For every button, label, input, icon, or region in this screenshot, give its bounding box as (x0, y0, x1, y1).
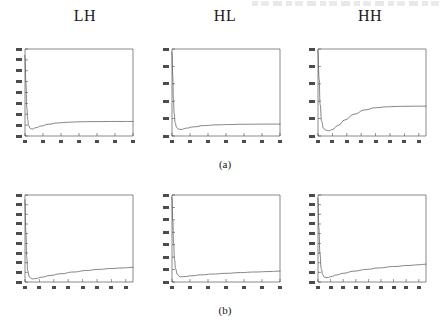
plot-panel-b-hh (297, 190, 430, 295)
y-tick-label (309, 194, 315, 197)
y-tick-label (16, 271, 22, 274)
y-tick-label (16, 102, 22, 105)
y-tick-label (309, 281, 315, 284)
x-tick-label (417, 140, 421, 143)
y-tick-label (16, 242, 22, 245)
x-tick-label (170, 286, 174, 289)
x-tick-label (95, 140, 99, 143)
y-tick-label (163, 218, 169, 221)
x-tick-label (109, 286, 113, 289)
y-tick-label (309, 213, 315, 216)
y-tick-label (16, 91, 22, 94)
y-tick-label (16, 113, 22, 116)
y-tick-label (16, 222, 22, 225)
x-tick-label (379, 286, 383, 289)
y-tick-label (16, 213, 22, 216)
y-tick-label (163, 194, 169, 197)
y-tick-label (309, 117, 315, 120)
y-tick-label (163, 65, 169, 68)
x-tick-label (417, 286, 421, 289)
x-tick-label (23, 140, 27, 143)
y-tick-label (309, 252, 315, 255)
x-tick-label (341, 286, 345, 289)
y-tick-label (309, 65, 315, 68)
plot-panel-b-lh (4, 190, 137, 295)
subfigure-label-b: (b) (195, 304, 255, 316)
x-tick-label (354, 286, 358, 289)
y-tick-label (309, 271, 315, 274)
y-tick-label (163, 206, 169, 209)
y-tick-label (309, 135, 315, 138)
y-tick-label (16, 58, 22, 61)
x-tick-label (242, 286, 246, 289)
plot-panel-a-hl (151, 44, 284, 149)
column-header-hh: HH (325, 7, 415, 25)
x-tick-label (124, 286, 128, 289)
y-tick-label (163, 82, 169, 85)
y-tick-label (16, 194, 22, 197)
y-tick-label (309, 222, 315, 225)
y-tick-label (163, 256, 169, 259)
column-header-hl: HL (180, 7, 270, 25)
x-tick-label (170, 140, 174, 143)
y-tick-label (163, 231, 169, 234)
plot-panel-b-hl (151, 190, 284, 295)
x-tick-label (59, 140, 63, 143)
x-tick-label (329, 286, 333, 289)
x-tick-label (77, 140, 81, 143)
y-tick-label (16, 252, 22, 255)
x-tick-label (242, 140, 246, 143)
y-tick-label (309, 82, 315, 85)
y-tick-label (163, 243, 169, 246)
x-tick-label (52, 286, 56, 289)
column-header-lh: LH (40, 7, 130, 25)
x-tick-label (131, 140, 135, 143)
x-tick-label (374, 140, 378, 143)
y-tick-label (309, 100, 315, 103)
y-tick-label (309, 242, 315, 245)
plot-panel-a-hh (297, 44, 430, 149)
y-tick-label (163, 135, 169, 138)
x-tick-label (366, 286, 370, 289)
x-tick-label (66, 286, 70, 289)
y-tick-label (16, 203, 22, 206)
y-tick-label (163, 281, 169, 284)
y-tick-label (16, 261, 22, 264)
y-tick-label (163, 268, 169, 271)
y-tick-label (309, 48, 315, 51)
y-tick-label (16, 80, 22, 83)
x-tick-label (316, 286, 320, 289)
y-tick-label (16, 135, 22, 138)
x-tick-label (345, 140, 349, 143)
x-tick-label (260, 286, 264, 289)
y-tick-label (163, 48, 169, 51)
x-tick-label (81, 286, 85, 289)
x-tick-label (278, 286, 282, 289)
y-tick-label (163, 100, 169, 103)
x-tick-label (404, 286, 408, 289)
y-tick-label (16, 69, 22, 72)
x-tick-label (224, 140, 228, 143)
x-tick-label (188, 286, 192, 289)
x-tick-label (388, 140, 392, 143)
x-tick-label (359, 140, 363, 143)
x-tick-label (278, 140, 282, 143)
plot-panel-a-lh (4, 44, 137, 149)
x-tick-label (224, 286, 228, 289)
y-tick-label (16, 124, 22, 127)
scan-artifact-strip (252, 1, 442, 6)
x-tick-label (260, 140, 264, 143)
y-tick-label (163, 117, 169, 120)
x-tick-label (206, 286, 210, 289)
x-tick-label (95, 286, 99, 289)
x-tick-label (113, 140, 117, 143)
x-tick-label (402, 140, 406, 143)
y-tick-label (16, 48, 22, 51)
x-tick-label (41, 140, 45, 143)
x-tick-label (316, 140, 320, 143)
y-tick-label (309, 232, 315, 235)
x-tick-label (37, 286, 41, 289)
y-tick-label (309, 203, 315, 206)
x-tick-label (23, 286, 27, 289)
x-tick-label (188, 140, 192, 143)
